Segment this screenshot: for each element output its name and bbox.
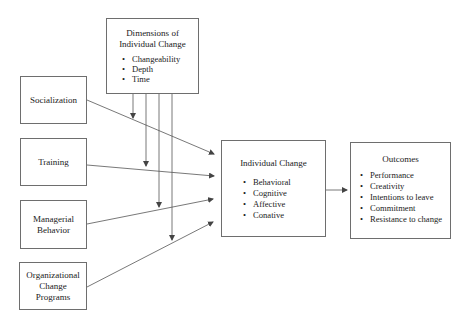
arrow-socialization [87,100,214,154]
training-box: Training [20,138,87,186]
managerial-behavior-box: Managerial Behavior [20,200,87,249]
outcomes-list: Performance Creativity Intentions to lea… [360,170,450,225]
list-item: Resistance to change [360,214,450,225]
individual-change-box: Individual Change Behavioral Cognitive A… [221,140,326,237]
managerial-label-line-1: Managerial [33,214,74,225]
list-item: Performance [360,170,450,181]
list-item: Behavioral [243,177,325,188]
list-item: Depth [122,64,198,74]
list-item: Changeability [122,54,198,64]
organizational-label-line-2: Change [39,281,67,292]
socialization-box: Socialization [20,76,87,124]
organizational-label-line-1: Organizational [26,270,79,281]
training-label: Training [38,157,69,168]
list-item: Commitment [360,203,450,214]
outcomes-title: Outcomes [351,154,450,165]
list-item: Creativity [360,181,450,192]
list-item: Time [122,74,198,84]
dimensions-box: Dimensions of Individual Change Changeab… [106,18,199,94]
managerial-label-line-2: Behavior [37,225,70,236]
dimensions-title-line-1: Dimensions of [107,28,198,39]
organizational-change-programs-box: Organizational Change Programs [19,262,87,310]
socialization-label: Socialization [30,95,77,106]
dimensions-title-line-2: Individual Change [107,39,198,50]
arrow-training [87,165,214,176]
outcomes-box: Outcomes Performance Creativity Intentio… [350,142,451,239]
dimensions-title: Dimensions of Individual Change [107,28,198,50]
list-item: Intentions to leave [360,192,450,203]
arrow-organizational [87,222,213,287]
arrow-managerial [87,199,213,224]
organizational-label-line-3: Programs [36,292,71,303]
list-item: Affective [243,199,325,210]
dimensions-list: Changeability Depth Time [122,54,198,84]
list-item: Cognitive [243,188,325,199]
list-item: Conative [243,210,325,221]
individual-change-title: Individual Change [222,158,325,169]
individual-change-list: Behavioral Cognitive Affective Conative [243,177,325,221]
